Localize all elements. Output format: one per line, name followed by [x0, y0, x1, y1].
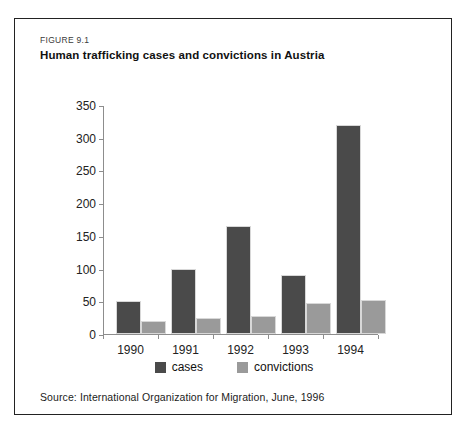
legend-item-cases: cases — [155, 361, 203, 373]
bar-cases-1990 — [116, 301, 141, 334]
figure-title: Human trafficking cases and convictions … — [40, 48, 420, 63]
x-axis-line — [103, 334, 378, 335]
bar-convictions-1994 — [361, 300, 386, 334]
bar-cases-1993 — [281, 275, 306, 334]
x-axis-label-1994: 1994 — [337, 343, 364, 357]
y-axis-tick-label: 250 — [76, 165, 96, 177]
y-axis-tick-label: 50 — [83, 296, 96, 308]
legend-label-convictions: convictions — [254, 361, 313, 373]
legend-swatch-convictions — [237, 362, 248, 373]
y-axis-tick-label: 100 — [76, 264, 96, 276]
y-axis-tick-label: 300 — [76, 133, 96, 145]
y-axis-tick — [99, 139, 103, 140]
chart-legend: casesconvictions — [15, 361, 453, 373]
y-axis-tick-label: 0 — [89, 329, 96, 341]
y-axis-tick — [99, 106, 103, 107]
x-axis-tick — [158, 335, 159, 339]
y-axis-tick-label: 350 — [76, 100, 96, 112]
bar-cases-1994 — [336, 125, 361, 334]
x-axis-tick — [268, 335, 269, 339]
x-axis-tick — [378, 335, 379, 339]
source-note: Source: International Organization for M… — [40, 391, 324, 403]
x-axis-tick — [103, 335, 104, 339]
bar-group — [226, 105, 276, 334]
bar-cases-1991 — [171, 269, 196, 334]
figure-frame: FIGURE 9.1 Human trafficking cases and c… — [14, 18, 452, 415]
bar-convictions-1992 — [251, 316, 276, 334]
bar-convictions-1993 — [306, 303, 331, 334]
x-axis-label-1993: 1993 — [282, 343, 309, 357]
y-axis-tick — [99, 302, 103, 303]
bar-convictions-1991 — [196, 318, 221, 334]
x-axis-tick — [323, 335, 324, 339]
y-axis-tick — [99, 204, 103, 205]
bar-group — [281, 105, 331, 334]
y-axis-line — [103, 106, 104, 335]
y-axis-tick-label: 200 — [76, 198, 96, 210]
y-axis-tick — [99, 237, 103, 238]
legend-label-cases: cases — [172, 361, 203, 373]
x-axis-label-1990: 1990 — [117, 343, 144, 357]
legend-item-convictions: convictions — [237, 361, 313, 373]
x-axis-label-1992: 1992 — [227, 343, 254, 357]
y-axis-tick — [99, 270, 103, 271]
bar-group — [116, 105, 166, 334]
y-axis-tick — [99, 171, 103, 172]
bar-group — [336, 105, 386, 334]
y-axis-tick-label: 150 — [76, 231, 96, 243]
bar-group — [171, 105, 221, 334]
figure-number: FIGURE 9.1 — [40, 35, 420, 46]
bar-cases-1992 — [226, 226, 251, 334]
chart-plot-area: 050100150200250300350 199019911992199319… — [103, 106, 378, 335]
legend-swatch-cases — [155, 362, 166, 373]
bar-convictions-1990 — [141, 321, 166, 334]
x-axis-tick — [213, 335, 214, 339]
x-axis-label-1991: 1991 — [172, 343, 199, 357]
figure-header: FIGURE 9.1 Human trafficking cases and c… — [40, 35, 420, 63]
